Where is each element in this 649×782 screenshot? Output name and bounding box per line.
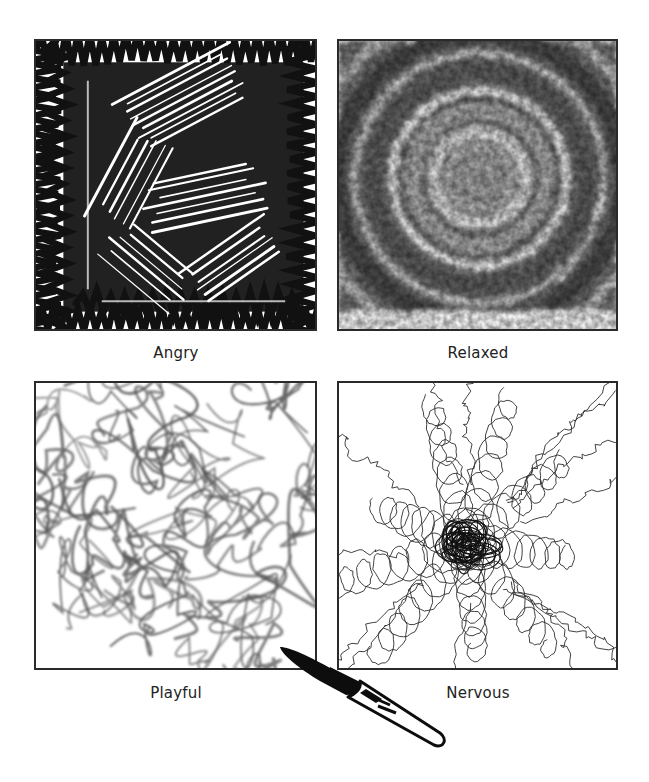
playful-loops-art: [36, 383, 315, 668]
playful-scribble-panel: [34, 381, 317, 670]
nervous-spirals-art: [339, 383, 616, 668]
nervous-strokes: [339, 383, 616, 668]
playful-caption: Playful: [76, 684, 276, 702]
relaxed-scribble-panel: [337, 39, 618, 331]
nervous-scribble-panel: [337, 381, 618, 670]
relaxed-rings-art: [339, 41, 616, 329]
nervous-caption: Nervous: [378, 684, 578, 702]
angry-scribble-panel: [34, 39, 317, 331]
angry-scribble-art: [36, 41, 315, 329]
angry-caption: Angry: [76, 344, 276, 362]
relaxed-caption: Relaxed: [378, 344, 578, 362]
